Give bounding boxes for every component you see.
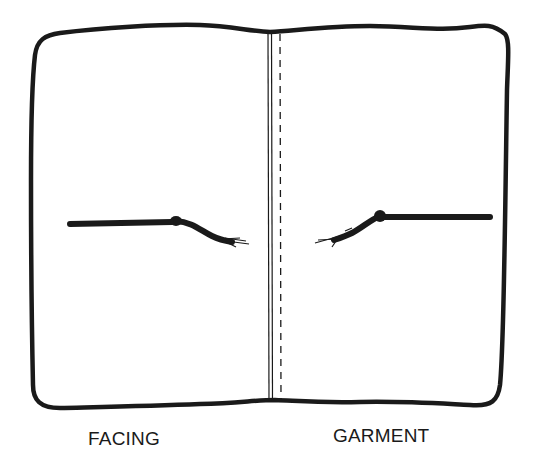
garment-slit <box>315 210 490 247</box>
garment-label: GARMENT <box>333 425 429 447</box>
facing-label: FACING <box>88 428 160 450</box>
fold-line-inner <box>272 33 273 401</box>
stitching-line <box>280 34 281 400</box>
fabric-diagram <box>0 0 556 462</box>
fold-line-outer <box>268 33 269 401</box>
diagram-canvas: FACING GARMENT <box>0 0 556 462</box>
facing-slit <box>70 216 249 247</box>
